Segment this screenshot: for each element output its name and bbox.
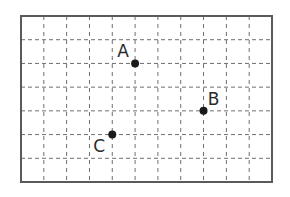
point-label-b: B (208, 89, 220, 109)
grid-lines (21, 16, 272, 182)
point-c: C (93, 131, 116, 156)
point-label-a: A (117, 41, 129, 61)
point-label-c: C (93, 136, 105, 156)
point-b: B (200, 89, 220, 115)
coordinate-grid: A B C (0, 0, 290, 197)
grid-border (21, 16, 272, 182)
